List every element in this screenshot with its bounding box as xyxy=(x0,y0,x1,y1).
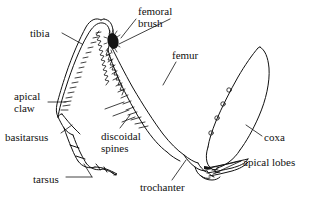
leader-tibia xyxy=(62,33,82,44)
label-trochanter: trochanter xyxy=(140,182,185,194)
label-discoidal-spines: discoidal spines xyxy=(101,131,141,154)
label-tarsus: tarsus xyxy=(33,174,59,186)
coxa-shape xyxy=(206,47,269,171)
leader-discoidal-spines xyxy=(120,115,130,128)
label-femoral-brush: femoral brush xyxy=(138,6,172,29)
leader-trochanter xyxy=(172,160,186,180)
insect-leg-diagram: tibia femoral brush femur apical claw ba… xyxy=(0,0,310,212)
label-coxa: coxa xyxy=(264,132,285,144)
leader-femur xyxy=(163,62,176,85)
label-femur: femur xyxy=(172,50,198,62)
leader-lines xyxy=(48,19,262,180)
label-apical-claw: apical claw xyxy=(14,91,40,114)
leader-femoral-brush-a xyxy=(121,19,136,38)
label-basitarsus: basitarsus xyxy=(5,132,48,144)
label-apical-lobes: apical lobes xyxy=(243,157,295,169)
discoidal-spines-shape xyxy=(105,50,148,128)
tibial-spines xyxy=(61,31,109,110)
basitarsus-shape xyxy=(64,128,103,170)
label-tibia: tibia xyxy=(30,28,50,40)
femoral-brush-shape xyxy=(106,32,120,50)
apical-claw-shape xyxy=(58,114,80,135)
